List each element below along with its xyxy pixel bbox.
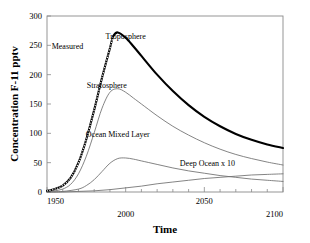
- series-line-deep-ocean-x-10: [47, 174, 283, 192]
- x-tick-label: 2100: [266, 209, 283, 219]
- y-tick-label: 200: [29, 70, 42, 80]
- series-annotation-stratosphere: Stratosphere: [87, 81, 127, 90]
- y-tick-label: 50: [34, 158, 43, 168]
- series-line-stratosphere: [47, 89, 283, 192]
- chart-canvas: Concentration F-11 pptvTime 050100150200…: [0, 0, 310, 243]
- chart-figure: Concentration F-11 pptvTime 050100150200…: [0, 0, 310, 243]
- x-tick-label: 2050: [196, 196, 213, 206]
- x-tick-label: 1950: [47, 196, 64, 206]
- series-line-measured: [47, 37, 113, 191]
- y-axis-title: Concentration F-11 pptv: [8, 46, 20, 162]
- series-annotation-measured: Measured: [52, 42, 84, 51]
- y-tick-label: 100: [29, 128, 42, 138]
- y-tick-label: 150: [29, 99, 42, 109]
- y-tick-label: 300: [29, 11, 42, 21]
- y-tick-label: 250: [29, 40, 42, 50]
- series-annotation-deep-ocean-x-10: Deep Ocean x 10: [180, 159, 235, 168]
- x-tick-label: 2000: [117, 209, 134, 219]
- y-tick-label: 0: [38, 187, 42, 197]
- series-annotation-troposphere: Troposphere: [106, 32, 147, 41]
- x-axis-title: Time: [153, 223, 177, 235]
- series-annotation-ocean-mixed-layer: Ocean Mixed Layer: [86, 130, 150, 139]
- series-line-troposphere: [47, 32, 283, 190]
